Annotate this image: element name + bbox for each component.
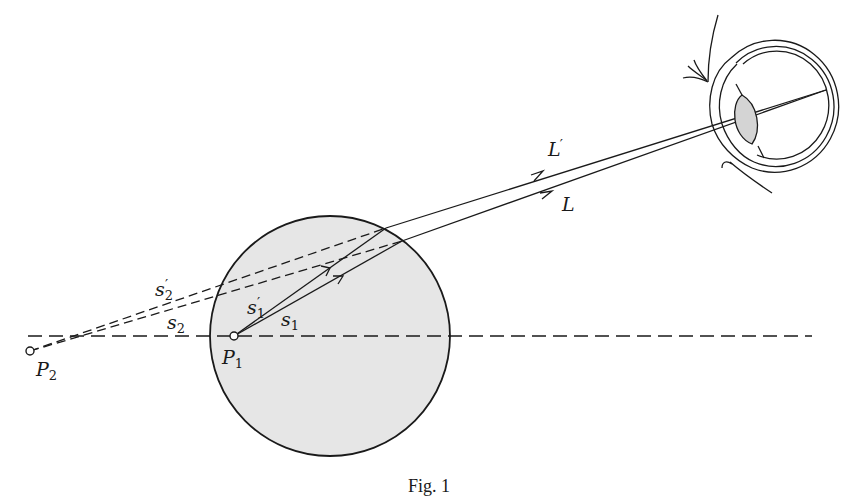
- label-s1: s1: [281, 310, 299, 332]
- label-P2-base: P: [36, 358, 49, 380]
- label-L: L: [562, 195, 575, 214]
- label-s1-prime-base: s: [247, 296, 257, 318]
- label-s2-prime-base: s: [155, 278, 165, 300]
- label-s1-prime-mark: ′: [257, 295, 260, 311]
- label-P2: P2: [36, 360, 57, 382]
- label-s1-sub: 1: [291, 318, 299, 333]
- point-P1: [230, 332, 238, 340]
- label-s2-prime: s2′: [155, 278, 168, 302]
- label-L-prime-mark: ′: [560, 137, 563, 153]
- point-P2: [26, 347, 34, 355]
- eye-icon: [683, 15, 839, 193]
- label-L-base: L: [562, 193, 575, 215]
- arrow-L-icon: [540, 191, 552, 199]
- label-P1-base: P: [222, 346, 235, 368]
- label-s2-base: s: [167, 311, 177, 333]
- optics-figure: L′ L s2′ s2 s1′ s1 P1 P2 Fig. 1: [0, 0, 858, 504]
- ray-L-prime: [386, 90, 826, 228]
- label-P1: P1: [222, 348, 243, 370]
- diagram-canvas: [0, 0, 858, 504]
- label-P2-sub: 2: [49, 368, 57, 383]
- figure-caption: Fig. 1: [0, 476, 858, 497]
- label-s2-prime-mark: ′: [165, 277, 168, 293]
- label-s1-base: s: [281, 308, 291, 330]
- label-s2: s2: [167, 313, 185, 335]
- label-P1-sub: 1: [235, 356, 243, 371]
- label-s2-sub: 2: [177, 321, 185, 336]
- label-L-prime: L′: [548, 138, 563, 159]
- label-L-prime-base: L: [548, 138, 561, 160]
- label-s1-prime: s1′: [247, 296, 260, 320]
